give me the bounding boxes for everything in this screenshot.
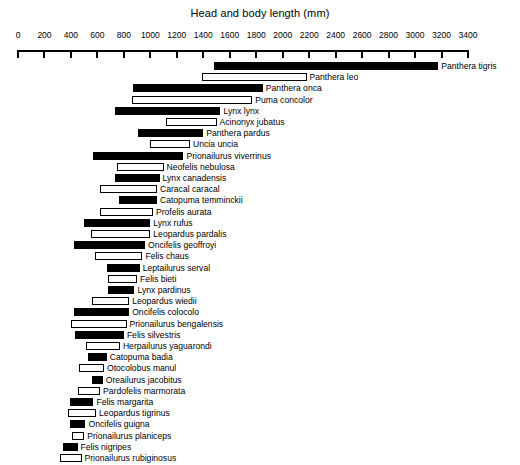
bar-row[interactable]: Panthera leo xyxy=(0,73,520,84)
bar-row[interactable]: Panthera tigris xyxy=(0,62,520,73)
bar-label: Herpailurus yaguarondi xyxy=(123,341,212,351)
range-bar[interactable] xyxy=(84,219,150,227)
bar-label: Oncifelis guigna xyxy=(89,419,150,429)
range-bar[interactable] xyxy=(70,420,86,428)
bar-label: Panthera pardus xyxy=(206,128,270,138)
bar-label: Profelis aurata xyxy=(156,207,211,217)
bar-row[interactable]: Caracal caracal xyxy=(0,185,520,196)
bar-label: Felis chaus xyxy=(145,251,188,261)
bar-label: Puma concolor xyxy=(255,95,312,105)
bar-row[interactable]: Leopardus wiedii xyxy=(0,297,520,308)
range-bar[interactable] xyxy=(115,107,221,115)
range-bar[interactable] xyxy=(71,320,127,328)
range-bar[interactable] xyxy=(74,308,130,316)
range-bar[interactable] xyxy=(214,62,438,70)
bar-row[interactable]: Leopardus tigrinus xyxy=(0,409,520,420)
bar-row[interactable]: Profelis aurata xyxy=(0,207,520,218)
bar-label: Oncifelis colocolo xyxy=(132,307,199,317)
range-bar[interactable] xyxy=(68,409,96,417)
range-bar[interactable] xyxy=(202,73,307,81)
bar-label: Lynx canadensis xyxy=(163,173,227,183)
bar-label: Felis bieti xyxy=(140,274,176,284)
bar-row[interactable]: Prionailurus rubiginosus xyxy=(0,454,520,465)
bar-label: Catopuma badia xyxy=(110,352,173,362)
bar-label: Neofelis nebulosa xyxy=(167,162,235,172)
bar-row[interactable]: Lynx lynx xyxy=(0,106,520,117)
bar-row[interactable]: Neofelis nebulosa xyxy=(0,162,520,173)
bar-label: Leopardus pardalis xyxy=(153,229,226,239)
bar-label: Leopardus tigrinus xyxy=(99,408,170,418)
bar-row[interactable]: Panthera pardus xyxy=(0,129,520,140)
bar-row[interactable]: Uncia uncia xyxy=(0,140,520,151)
range-bar[interactable] xyxy=(72,432,84,440)
range-bar[interactable] xyxy=(166,118,216,126)
bar-row[interactable]: Otocolobus manul xyxy=(0,364,520,375)
bar-row[interactable]: Felis chaus xyxy=(0,252,520,263)
range-bar[interactable] xyxy=(115,174,160,182)
range-bar[interactable] xyxy=(79,364,104,372)
range-bar[interactable] xyxy=(88,353,107,361)
bar-row[interactable]: Felis silvestris xyxy=(0,330,520,341)
bar-row[interactable]: Oreailurus jacobitus xyxy=(0,375,520,386)
bar-row[interactable]: Felis bieti xyxy=(0,274,520,285)
range-bar[interactable] xyxy=(92,376,103,384)
range-bar[interactable] xyxy=(92,297,129,305)
range-bar[interactable] xyxy=(74,241,145,249)
bar-label: Prionailurus viverrinus xyxy=(186,151,271,161)
bar-label: Panthera tigris xyxy=(441,61,496,71)
range-bar[interactable] xyxy=(138,129,203,137)
bar-label: Lynx lynx xyxy=(224,106,260,116)
range-bar[interactable] xyxy=(91,230,151,238)
bar-label: Catopuma temminckii xyxy=(160,195,243,205)
bar-label: Acinonyx jubatus xyxy=(220,117,285,127)
bar-row[interactable]: Oncifelis colocolo xyxy=(0,308,520,319)
range-bar[interactable] xyxy=(86,342,120,350)
range-bar[interactable] xyxy=(100,208,153,216)
range-bar[interactable] xyxy=(93,152,183,160)
bar-row[interactable]: Catopuma badia xyxy=(0,353,520,364)
bar-row[interactable]: Lynx pardinus xyxy=(0,286,520,297)
bar-row[interactable]: Prionailurus planiceps xyxy=(0,431,520,442)
bar-row[interactable]: Herpailurus yaguarondi xyxy=(0,342,520,353)
bar-row[interactable]: Prionailurus bengalensis xyxy=(0,319,520,330)
bar-row[interactable]: Panthera onca xyxy=(0,84,520,95)
bar-row[interactable]: Acinonyx jubatus xyxy=(0,118,520,129)
bar-row[interactable]: Lynx canadensis xyxy=(0,174,520,185)
range-bar[interactable] xyxy=(75,331,124,339)
bar-label: Panthera onca xyxy=(266,83,322,93)
bar-label: Uncia uncia xyxy=(193,139,238,149)
bar-row[interactable]: Puma concolor xyxy=(0,95,520,106)
bar-label: Prionailurus rubiginosus xyxy=(85,453,177,463)
range-bar[interactable] xyxy=(133,84,263,92)
bar-row[interactable]: Felis nigripes xyxy=(0,442,520,453)
range-bar[interactable] xyxy=(117,163,163,171)
bar-label: Prionailurus bengalensis xyxy=(130,319,224,329)
range-bar[interactable] xyxy=(132,96,252,104)
bar-label: Leopardus wiedii xyxy=(132,296,197,306)
bar-row[interactable]: Oncifelis geoffroyi xyxy=(0,241,520,252)
bar-label: Panthera leo xyxy=(310,72,359,82)
bar-label: Otocolobus manul xyxy=(107,363,176,373)
caption-sliver xyxy=(0,392,520,400)
bar-label: Caracal caracal xyxy=(160,184,220,194)
bar-row[interactable]: Prionailurus viverrinus xyxy=(0,151,520,162)
bar-row[interactable]: Oncifelis guigna xyxy=(0,420,520,431)
range-bar[interactable] xyxy=(108,286,134,294)
bar-label: Felis silvestris xyxy=(127,330,180,340)
range-bar[interactable] xyxy=(60,454,81,462)
range-bar[interactable] xyxy=(95,252,143,260)
bar-label: Leptailurus serval xyxy=(143,263,210,273)
bar-row[interactable]: Leptailurus serval xyxy=(0,263,520,274)
range-bar[interactable] xyxy=(100,185,157,193)
range-bar[interactable] xyxy=(119,196,157,204)
bar-row[interactable]: Lynx rufus xyxy=(0,218,520,229)
bar-row[interactable]: Catopuma temminckii xyxy=(0,196,520,207)
bar-row[interactable]: Leopardus pardalis xyxy=(0,230,520,241)
range-bar[interactable] xyxy=(108,275,137,283)
bar-label: Prionailurus planiceps xyxy=(87,431,171,441)
range-bar[interactable] xyxy=(150,140,190,148)
range-bar[interactable] xyxy=(107,264,140,272)
range-bar[interactable] xyxy=(63,443,78,451)
